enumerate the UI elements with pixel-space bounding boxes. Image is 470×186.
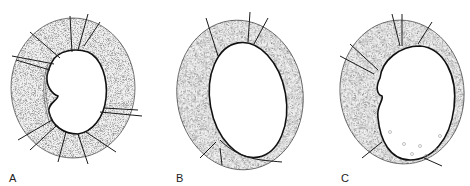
ring-illustration-a (0, 0, 160, 186)
ring-illustration-b (160, 0, 320, 186)
panel-label-c: C (341, 172, 349, 184)
panel-b: B (160, 0, 320, 186)
panel-a: A (0, 0, 160, 186)
panel-c: C (320, 0, 470, 186)
panel-label-a: A (9, 172, 16, 184)
ring-illustration-c (320, 0, 470, 186)
panel-label-b: B (176, 172, 183, 184)
